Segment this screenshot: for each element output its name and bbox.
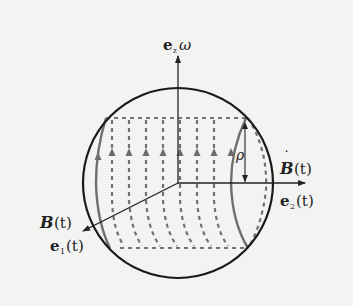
label-z-axis: e z ω <box>163 36 191 55</box>
label-e1: e 1 (t) <box>50 237 84 256</box>
svg-text:B: B <box>279 159 294 178</box>
diagram-canvas: e z ω ρ ˙ B (t) e 2 (t) B (t) e 1 (t) <box>0 0 353 306</box>
svg-text:(t): (t) <box>66 237 84 255</box>
svg-text:B: B <box>39 213 54 232</box>
svg-text:1: 1 <box>60 247 65 256</box>
label-rho: ρ <box>235 147 245 163</box>
svg-text:(t): (t) <box>294 160 312 178</box>
svg-text:e: e <box>280 192 290 210</box>
label-b-dot: ˙ B (t) <box>279 149 312 178</box>
svg-text:(t): (t) <box>296 192 314 210</box>
field-direction-arrows <box>95 148 235 160</box>
label-e2: e 2 (t) <box>280 192 314 211</box>
svg-text:ρ: ρ <box>235 147 245 163</box>
svg-text:e: e <box>50 237 60 255</box>
label-b: B (t) <box>39 213 72 232</box>
svg-text:z: z <box>173 47 177 55</box>
svg-text:ω: ω <box>179 36 191 54</box>
svg-text:e: e <box>163 36 173 54</box>
svg-text:2: 2 <box>290 202 295 211</box>
cylinder-left-edge <box>96 118 110 248</box>
svg-text:(t): (t) <box>54 214 72 232</box>
